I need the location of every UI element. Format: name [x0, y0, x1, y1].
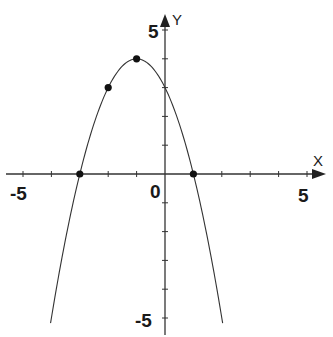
- x-axis-label: X: [313, 152, 323, 169]
- data-point: [133, 55, 140, 62]
- data-point: [105, 84, 112, 91]
- y-axis-arrow-icon: [160, 14, 170, 27]
- data-point: [76, 170, 83, 177]
- x-min-label: -5: [10, 183, 27, 204]
- x-max-label: 5: [298, 185, 309, 206]
- y-axis-label: Y: [172, 11, 182, 28]
- origin-label: 0: [150, 181, 161, 202]
- data-points: [76, 55, 197, 177]
- parabola-curve: [51, 59, 223, 323]
- y-min-label: -5: [135, 310, 152, 331]
- x-axis-arrow-icon: [312, 169, 326, 179]
- data-point: [190, 170, 197, 177]
- parabola-plot: X Y 0 -5 5 5 -5: [0, 0, 333, 337]
- y-max-label: 5: [148, 21, 159, 42]
